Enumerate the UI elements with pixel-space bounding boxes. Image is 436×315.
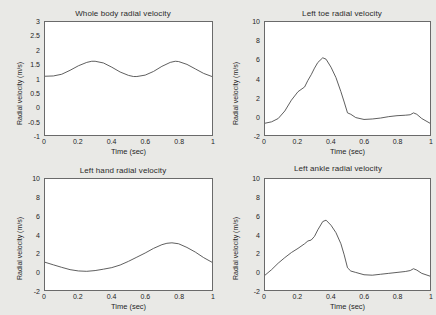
xtick-left-ankle-5: 1 xyxy=(429,293,433,300)
xtick-whole-body-4: 0.8 xyxy=(174,138,184,145)
ytick-left-ankle-6: -2 xyxy=(240,288,260,295)
ytick-left-hand-5: 0 xyxy=(22,269,40,276)
ytick-left-ankle-3: 4 xyxy=(242,231,260,238)
panel-left-toe: Left toe radial velocity Radial velocity… xyxy=(218,0,436,158)
ytick-left-ankle-0: 10 xyxy=(242,175,260,182)
xtick-left-hand-1: 0.2 xyxy=(73,293,83,300)
xtick-left-toe-0: 0 xyxy=(262,138,266,145)
series-line-left-ankle xyxy=(265,179,430,290)
panel-title-left-ankle: Left ankle radial velocity xyxy=(244,164,432,173)
xtick-left-hand-3: 0.6 xyxy=(141,293,151,300)
ytick-left-ankle-1: 8 xyxy=(242,193,260,200)
xtick-left-ankle-3: 0.6 xyxy=(359,293,369,300)
panel-title-whole-body: Whole body radial velocity xyxy=(28,9,218,18)
xtick-left-toe-4: 0.8 xyxy=(393,138,403,145)
figure-canvas: Whole body radial velocity Radial veloci… xyxy=(0,0,436,315)
ytick-whole-body-8: -1 xyxy=(22,133,40,140)
ytick-left-hand-1: 8 xyxy=(22,193,40,200)
ytick-left-toe-4: 2 xyxy=(242,94,260,101)
xtick-left-toe-2: 0.4 xyxy=(326,138,336,145)
ytick-left-ankle-2: 6 xyxy=(242,212,260,219)
ytick-left-hand-3: 4 xyxy=(22,231,40,238)
ytick-left-toe-3: 4 xyxy=(242,75,260,82)
ytick-left-hand-6: -2 xyxy=(20,288,40,295)
xtick-left-ankle-0: 0 xyxy=(262,293,266,300)
y-axis-label-left-ankle: Radial velocity (m/s) xyxy=(232,217,239,280)
xtick-whole-body-0: 0 xyxy=(42,138,46,145)
x-axis-label-left-hand: Time (sec) xyxy=(44,302,213,311)
xtick-left-hand-5: 1 xyxy=(211,293,215,300)
plot-area-whole-body xyxy=(44,21,213,136)
xtick-left-ankle-1: 0.2 xyxy=(293,293,303,300)
ytick-whole-body-5: 0.5 xyxy=(22,89,40,96)
panel-whole-body: Whole body radial velocity Radial veloci… xyxy=(0,0,218,158)
panel-left-ankle: Left ankle radial velocity Radial veloci… xyxy=(218,158,436,315)
panel-title-left-toe: Left toe radial velocity xyxy=(248,9,436,18)
ytick-whole-body-1: 2.5 xyxy=(22,32,40,39)
ytick-whole-body-2: 2 xyxy=(22,46,40,53)
ytick-left-toe-6: -2 xyxy=(240,133,260,140)
series-line-left-hand xyxy=(45,179,212,290)
panel-left-hand: Left hand radial velocity Radial velocit… xyxy=(0,158,218,315)
xtick-whole-body-2: 0.4 xyxy=(107,138,117,145)
xtick-left-toe-5: 1 xyxy=(429,138,433,145)
ytick-left-hand-2: 6 xyxy=(22,212,40,219)
y-axis-label-left-toe: Radial velocity (m/s) xyxy=(232,62,239,125)
xtick-left-toe-3: 0.6 xyxy=(359,138,369,145)
series-line-whole-body xyxy=(45,22,212,135)
ytick-left-hand-4: 2 xyxy=(22,250,40,257)
x-axis-label-left-ankle: Time (sec) xyxy=(264,302,431,311)
xtick-left-hand-4: 0.8 xyxy=(174,293,184,300)
plot-area-left-hand xyxy=(44,178,213,291)
ytick-left-ankle-5: 0 xyxy=(242,269,260,276)
xtick-left-toe-1: 0.2 xyxy=(293,138,303,145)
x-axis-label-whole-body: Time (sec) xyxy=(44,147,213,156)
ytick-left-toe-5: 0 xyxy=(242,113,260,120)
plot-area-left-toe xyxy=(264,21,431,136)
ytick-whole-body-3: 1.5 xyxy=(22,61,40,68)
ytick-left-hand-0: 10 xyxy=(22,175,40,182)
xtick-left-ankle-2: 0.4 xyxy=(326,293,336,300)
xtick-whole-body-5: 1 xyxy=(211,138,215,145)
panel-title-left-hand: Left hand radial velocity xyxy=(28,166,218,175)
ytick-whole-body-4: 1 xyxy=(22,75,40,82)
xtick-left-hand-0: 0 xyxy=(42,293,46,300)
ytick-left-toe-0: 10 xyxy=(242,18,260,25)
ytick-whole-body-6: 0 xyxy=(22,104,40,111)
xtick-left-hand-2: 0.4 xyxy=(107,293,117,300)
xtick-whole-body-1: 0.2 xyxy=(73,138,83,145)
xtick-whole-body-3: 0.6 xyxy=(141,138,151,145)
ytick-left-ankle-4: 2 xyxy=(242,250,260,257)
ytick-left-toe-1: 8 xyxy=(242,37,260,44)
ytick-whole-body-0: 3 xyxy=(22,18,40,25)
ytick-whole-body-7: -0.5 xyxy=(20,118,40,125)
xtick-left-ankle-4: 0.8 xyxy=(393,293,403,300)
series-line-left-toe xyxy=(265,22,430,135)
x-axis-label-left-toe: Time (sec) xyxy=(264,147,431,156)
ytick-left-toe-2: 6 xyxy=(242,56,260,63)
plot-area-left-ankle xyxy=(264,178,431,291)
